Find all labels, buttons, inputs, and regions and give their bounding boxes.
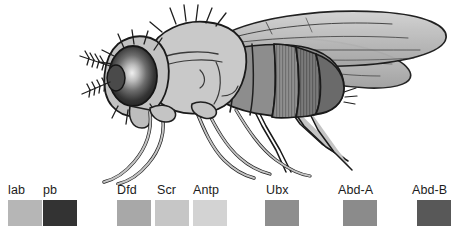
- hox-gene-label-pb: pb: [43, 183, 77, 197]
- hox-gene-pb: pb: [43, 183, 77, 226]
- hox-gene-ubx: Ubx: [265, 183, 299, 226]
- hox-color-swatch-ubx: [265, 200, 299, 226]
- hox-gene-label-abd-b: Abd-B: [412, 183, 451, 197]
- hox-color-swatch-abd-a: [343, 200, 377, 226]
- hox-gene-lab: lab: [8, 183, 42, 226]
- hox-color-swatch-abd-b: [417, 200, 451, 226]
- hox-color-swatch-antp: [193, 200, 227, 226]
- hox-gene-label-antp: Antp: [193, 183, 227, 197]
- hox-color-swatch-pb: [43, 200, 77, 226]
- hox-color-swatch-lab: [8, 200, 42, 226]
- hox-gene-label-ubx: Ubx: [265, 183, 299, 197]
- hox-gene-dfd: Dfd: [117, 183, 151, 226]
- hox-gene-abd-b: Abd-B: [412, 183, 451, 226]
- hox-gene-label-scr: Scr: [155, 183, 189, 197]
- hox-color-swatch-dfd: [117, 200, 151, 226]
- hox-gene-scr: Scr: [155, 183, 189, 226]
- hox-gene-legend: lab pb Dfd Scr Antp Ubx Abd-A Abd-B: [0, 183, 463, 245]
- drosophila-illustration: [0, 0, 463, 185]
- hox-gene-label-abd-a: Abd-A: [338, 183, 377, 197]
- hox-gene-abd-a: Abd-A: [338, 183, 377, 226]
- hox-gene-label-lab: lab: [8, 183, 42, 197]
- hox-gene-antp: Antp: [193, 183, 227, 226]
- hox-gene-label-dfd: Dfd: [117, 183, 151, 197]
- hox-color-swatch-scr: [155, 200, 189, 226]
